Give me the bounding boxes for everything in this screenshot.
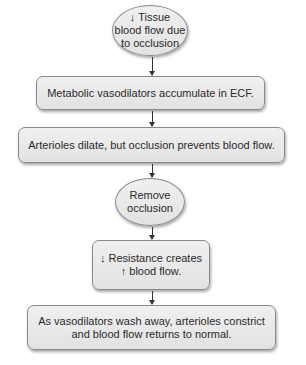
edge-arrow — [152, 111, 153, 126]
down-arrow-icon: ↓ — [130, 11, 136, 23]
node-remove-occlusion: Remove occlusion — [115, 178, 185, 226]
node-tissue-blood-flow: ↓ Tissue blood flow due to occlusion — [112, 5, 188, 56]
node-vasodilators-wash-away: As vasodilators wash away, arterioles co… — [27, 305, 276, 350]
edge-arrow — [152, 164, 153, 177]
node-arterioles-dilate: Arterioles dilate, but occlusion prevent… — [18, 127, 285, 163]
node-metabolic-vasodilators: Metabolic vasodilators accumulate in ECF… — [36, 76, 265, 110]
edge-arrow — [152, 227, 153, 239]
up-arrow-icon: ↑ — [121, 265, 127, 277]
node-resistance-creates-flow: ↓ Resistance creates ↑ blood flow. — [92, 240, 210, 290]
edge-arrow — [152, 291, 153, 304]
edge-arrow — [152, 57, 153, 75]
down-arrow-icon: ↓ — [100, 252, 106, 264]
